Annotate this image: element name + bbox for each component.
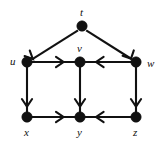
node-v[interactable] [75,57,85,67]
node-x[interactable] [22,112,32,122]
edge-t-w [86,30,134,59]
node-label-x: x [24,127,29,138]
node-group [22,21,141,122]
edge-u-x [22,66,32,114]
edge-x-y [31,112,77,122]
edge-v-y [75,66,85,114]
node-label-u: u [10,56,16,67]
edge-t-u-line [32,30,78,59]
node-u[interactable] [22,57,32,67]
node-label-z: z [133,127,137,138]
node-label-t: t [80,7,83,18]
edge-z-y [84,112,133,122]
node-w[interactable] [131,57,141,67]
node-label-v: v [77,43,82,54]
edge-w-z [131,66,141,114]
node-y[interactable] [75,112,85,122]
edge-w-v [84,57,133,67]
node-label-w: w [147,58,154,69]
node-t[interactable] [77,21,87,31]
graph-figure: t u v w x y z [0,0,166,148]
edge-t-u [25,30,78,59]
edge-t-w-line [86,30,131,59]
node-label-y: y [77,127,82,138]
edge-u-v [31,57,77,67]
node-z[interactable] [131,112,141,122]
